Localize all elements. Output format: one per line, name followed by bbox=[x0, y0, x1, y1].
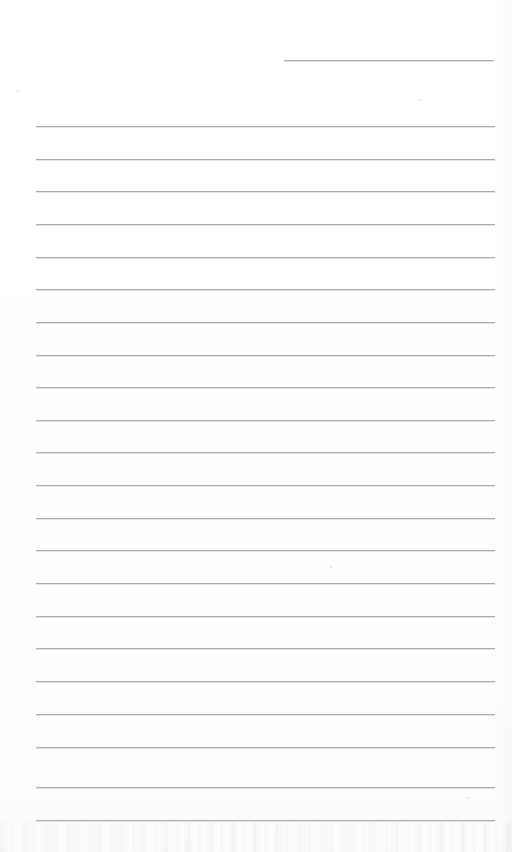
writing-line bbox=[36, 191, 495, 192]
writing-line bbox=[36, 648, 495, 649]
writing-line bbox=[36, 355, 495, 356]
writing-line bbox=[36, 747, 495, 748]
writing-line bbox=[36, 681, 495, 682]
writing-line bbox=[36, 224, 495, 225]
ruled-lines-layer bbox=[0, 0, 512, 852]
writing-line bbox=[36, 159, 495, 160]
writing-line bbox=[36, 616, 495, 617]
writing-line bbox=[36, 518, 495, 519]
writing-line bbox=[36, 820, 495, 821]
writing-line bbox=[36, 257, 495, 258]
top-short-rule bbox=[284, 60, 494, 61]
writing-line bbox=[36, 550, 495, 551]
writing-line bbox=[36, 452, 495, 453]
scanned-page bbox=[0, 0, 512, 852]
writing-line bbox=[36, 714, 495, 715]
writing-line bbox=[36, 387, 495, 388]
writing-line bbox=[36, 420, 495, 421]
writing-line bbox=[36, 485, 495, 486]
writing-line bbox=[36, 289, 495, 290]
writing-line bbox=[36, 787, 495, 788]
writing-line bbox=[36, 126, 495, 127]
writing-line bbox=[36, 322, 495, 323]
writing-line bbox=[36, 583, 495, 584]
